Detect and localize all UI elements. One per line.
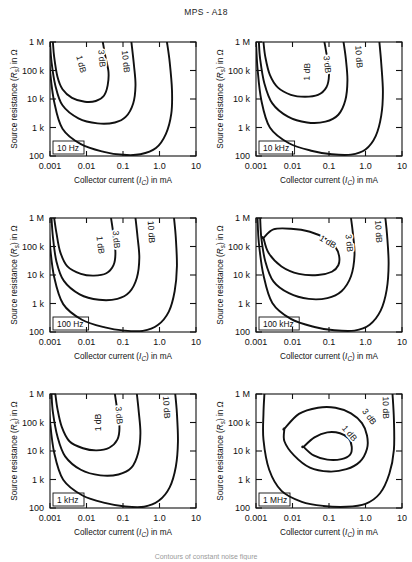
- x-tick-label: 0.1: [323, 337, 336, 347]
- svg-text:10 dB: 10 dB: [161, 396, 172, 419]
- x-tick-label: 1.0: [359, 161, 372, 171]
- y-tick-label: 10 k: [27, 446, 45, 456]
- page-title: MPS - A18: [0, 7, 412, 17]
- contour-3-dB: [259, 42, 348, 123]
- contour-1-dB: [263, 42, 329, 97]
- y-tick-label: 1 M: [29, 389, 44, 399]
- contour-1-dB: [55, 394, 119, 450]
- x-tick-label: 0.01: [284, 161, 302, 171]
- x-tick-label: 1.0: [153, 513, 166, 523]
- svg-text:1 dB: 1 dB: [302, 62, 313, 80]
- x-tick-label: 10: [191, 161, 201, 171]
- x-tick-label: 10: [397, 513, 407, 523]
- plot-frame: [50, 218, 196, 332]
- figure-caption: Contours of constant noise figure: [0, 553, 412, 560]
- x-tick-label: 0.01: [284, 513, 302, 523]
- contour-3-dB: [52, 218, 140, 300]
- x-axis-title: Collector current (IC) in mA: [280, 352, 378, 362]
- y-tick-label: 1 k: [238, 475, 251, 485]
- y-tick-label: 1 k: [32, 123, 45, 133]
- contour-label-10-dB: 10 dB10 dB: [161, 396, 172, 419]
- y-tick-label: 1 k: [32, 475, 45, 485]
- y-tick-label: 10 k: [27, 270, 45, 280]
- svg-text:10 dB: 10 dB: [146, 220, 157, 243]
- plot-frame: [256, 394, 402, 508]
- contour-label-10-dB: 10 dB10 dB: [120, 50, 132, 74]
- x-tick-label: 0.001: [245, 513, 268, 523]
- x-tick-label: 1.0: [153, 337, 166, 347]
- contour-group: [263, 394, 394, 507]
- chart-panel-100-hz: 0.0010.010.11.0101 M100 k10 k1 k1001 dB1…: [6, 206, 206, 378]
- y-tick-label: 1 k: [238, 123, 251, 133]
- x-tick-label: 0.01: [78, 337, 96, 347]
- chart-panel-1-mhz: 0.0010.010.11.0101 M100 k10 k1 k1001 dB1…: [212, 382, 412, 554]
- y-tick-label: 100 k: [228, 418, 251, 428]
- x-tick-label: 0.001: [39, 161, 62, 171]
- x-tick-label: 10: [397, 337, 407, 347]
- x-axis-title: Collector current (IC) in mA: [74, 528, 172, 538]
- contour-label-10-dB: 10 dB10 dB: [353, 45, 365, 68]
- y-tick-label: 10 k: [27, 94, 45, 104]
- svg-text:3 dB: 3 dB: [111, 230, 123, 249]
- y-tick-label: 100: [29, 151, 44, 161]
- contour-label-10-dB: 10 dB10 dB: [373, 220, 385, 243]
- svg-text:3 dB: 3 dB: [113, 406, 125, 425]
- svg-text:3 dB: 3 dB: [96, 49, 108, 68]
- y-tick-label: 100: [235, 151, 250, 161]
- frequency-label: 100 Hz: [57, 319, 84, 329]
- contour-1-dB: [302, 432, 352, 460]
- y-tick-label: 10 k: [233, 94, 251, 104]
- y-axis-title: Source resistance (Rs) in Ω: [10, 225, 20, 324]
- svg-text:10 dB: 10 dB: [353, 45, 365, 68]
- y-tick-label: 1 M: [235, 37, 250, 47]
- contour-label-3-dB: 3 dB3 dB: [96, 49, 108, 68]
- y-tick-label: 100: [235, 327, 250, 337]
- svg-text:10 dB: 10 dB: [373, 220, 385, 243]
- chart-panel-100-khz: 0.0010.010.11.0101 M100 k10 k1 k1001 dB1…: [212, 206, 412, 378]
- y-tick-label: 100 k: [228, 242, 251, 252]
- x-axis-title: Collector current (IC) in mA: [280, 176, 378, 186]
- y-axis-title: Source resistance (Rs) in Ω: [10, 401, 20, 500]
- y-tick-label: 1 M: [235, 389, 250, 399]
- x-tick-label: 0.01: [78, 513, 96, 523]
- contour-label-10-dB: 10 dB10 dB: [381, 396, 392, 419]
- svg-text:10 dB: 10 dB: [120, 50, 132, 74]
- contour-10-dB: [48, 42, 172, 155]
- y-axis-title: Source resistance (Rs) in Ω: [10, 49, 20, 148]
- x-tick-label: 1.0: [359, 513, 372, 523]
- y-tick-label: 10 k: [233, 446, 251, 456]
- svg-text:10 dB: 10 dB: [381, 396, 392, 419]
- frequency-label: 10 Hz: [57, 143, 79, 153]
- contour-label-1-dB: 1 dB1 dB: [94, 236, 106, 255]
- contour-label-3-dB: 3 dB3 dB: [111, 230, 123, 249]
- y-tick-label: 100: [29, 327, 44, 337]
- x-axis-title: Collector current (IC) in mA: [74, 176, 172, 186]
- svg-text:1 dB: 1 dB: [93, 413, 103, 431]
- y-tick-label: 1 k: [32, 299, 45, 309]
- y-tick-label: 100 k: [22, 418, 45, 428]
- contour-label-10-dB: 10 dB10 dB: [146, 220, 157, 243]
- x-tick-label: 0.1: [117, 337, 130, 347]
- contour-label-3-dB: 3 dB3 dB: [113, 406, 125, 425]
- chart-panel-10-hz: 0.0010.010.11.0101 M100 k10 k1 k1001 dB1…: [6, 30, 206, 202]
- svg-text:3 dB: 3 dB: [344, 234, 356, 253]
- svg-text:1 dB: 1 dB: [340, 423, 359, 443]
- contour-label-1-dB: 1 dB1 dB: [74, 54, 88, 74]
- x-axis-title: Collector current (IC) in mA: [74, 352, 172, 362]
- x-tick-label: 0.01: [78, 161, 96, 171]
- frequency-label: 10 kHz: [263, 143, 289, 153]
- x-tick-label: 0.1: [323, 513, 336, 523]
- x-tick-label: 0.01: [284, 337, 302, 347]
- y-tick-label: 100 k: [22, 66, 45, 76]
- frequency-label: 1 MHz: [263, 495, 287, 505]
- x-tick-label: 0.1: [323, 161, 336, 171]
- chart-panel-10-khz: 0.0010.010.11.0101 M100 k10 k1 k1001 dB1…: [212, 30, 412, 202]
- x-tick-label: 1.0: [359, 337, 372, 347]
- y-tick-label: 1 M: [29, 37, 44, 47]
- svg-text:3 dB: 3 dB: [322, 55, 334, 74]
- svg-text:1 dB: 1 dB: [94, 236, 106, 255]
- y-tick-label: 1 k: [238, 299, 251, 309]
- contour-label-3-dB: 3 dB3 dB: [344, 234, 356, 253]
- y-tick-label: 1 M: [29, 213, 44, 223]
- contour-10-dB: [48, 394, 178, 507]
